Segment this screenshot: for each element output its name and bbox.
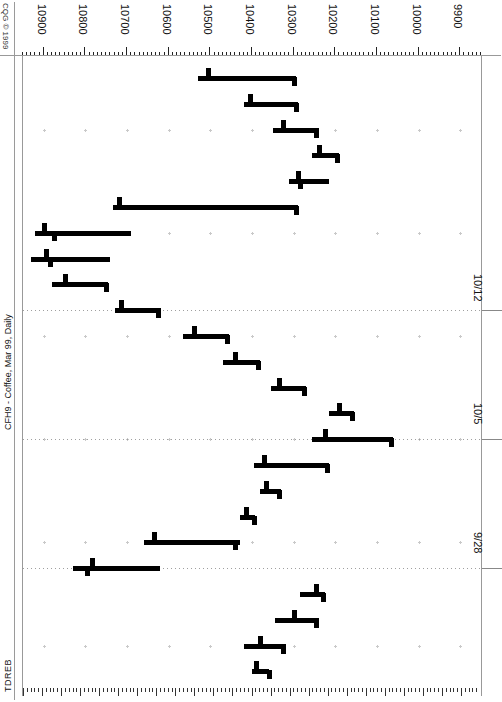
time-ruler-tick (46, 688, 47, 692)
time-ruler-tick (297, 688, 298, 692)
time-ruler-tick (400, 688, 401, 692)
time-ruler-tick (252, 688, 253, 696)
time-ruler-tick (248, 688, 249, 692)
price-tick-label: 10300 (286, 4, 298, 35)
time-ruler-tick (145, 688, 146, 692)
time-ruler-tick (73, 688, 74, 692)
time-ruler-tick (229, 688, 230, 692)
time-ruler-tick (442, 688, 443, 696)
time-ruler-tick (141, 688, 142, 692)
time-ruler-tick (130, 688, 131, 692)
time-ruler-tick (34, 688, 35, 692)
time-ruler-tick (286, 688, 287, 692)
time-ruler-tick (126, 688, 127, 692)
time-ruler-tick (331, 688, 332, 692)
time-ruler-tick (362, 688, 363, 692)
time-ruler-tick (343, 688, 344, 692)
time-ruler-tick (263, 688, 264, 692)
time-ruler-tick (377, 688, 378, 692)
time-ruler-tick (392, 688, 393, 692)
time-ruler-tick (198, 688, 199, 692)
date-axis-separator (482, 568, 502, 569)
time-ruler-tick (84, 688, 85, 692)
time-ruler-tick (290, 688, 291, 696)
time-ruler-tick (232, 688, 233, 696)
time-ruler-tick (179, 688, 180, 692)
date-tick-label: 9/28 (472, 532, 484, 553)
time-ruler-tick (221, 688, 222, 692)
time-ruler-tick (404, 688, 405, 696)
time-ruler-tick (31, 688, 32, 692)
time-ruler-tick (80, 688, 81, 696)
date-axis: 10/1210/59/28 (481, 56, 501, 696)
time-ruler-tick (152, 688, 153, 692)
time-ruler-tick (206, 688, 207, 692)
time-ruler-tick (446, 688, 447, 692)
time-ruler-tick (133, 688, 134, 692)
time-ruler-tick (23, 688, 24, 696)
time-ruler-tick (274, 688, 275, 692)
time-ruler-tick (27, 688, 28, 692)
time-ruler-tick (202, 688, 203, 692)
time-ruler-tick (69, 688, 70, 692)
time-ruler-tick (65, 688, 66, 692)
price-tick-label: 10700 (119, 4, 131, 35)
ohlc-open-tick (254, 661, 259, 670)
time-ruler-tick (194, 688, 195, 696)
time-ruler-tick (434, 688, 435, 692)
time-ruler-tick (450, 688, 451, 692)
time-ruler-tick (225, 688, 226, 692)
ohlc-close-tick (267, 670, 272, 679)
time-axis-ruler (23, 688, 480, 696)
time-ruler-tick (76, 688, 77, 692)
time-ruler-tick (50, 688, 51, 692)
time-ruler-tick (461, 688, 462, 696)
time-ruler-tick (213, 688, 214, 696)
time-ruler-tick (217, 688, 218, 692)
time-ruler-tick (347, 688, 348, 696)
time-ruler-tick (244, 688, 245, 692)
time-ruler-tick (255, 688, 256, 692)
time-ruler-tick (183, 688, 184, 692)
time-ruler-tick (240, 688, 241, 692)
time-ruler-tick (358, 688, 359, 692)
price-tick-label: 10100 (369, 4, 381, 35)
time-ruler-tick (168, 688, 169, 692)
price-tick-label: 10600 (161, 4, 173, 35)
time-ruler-tick (191, 688, 192, 692)
time-ruler-tick (453, 688, 454, 692)
time-ruler-tick (164, 688, 165, 692)
time-ruler-tick (137, 688, 138, 696)
time-ruler-tick (415, 688, 416, 692)
time-ruler-tick (282, 688, 283, 692)
time-ruler-tick (354, 688, 355, 692)
time-ruler-tick (122, 688, 123, 692)
frame-left-rail (14, 2, 15, 700)
price-tick-label: 10900 (36, 4, 48, 35)
time-ruler-tick (370, 688, 371, 692)
time-ruler-tick (172, 688, 173, 692)
time-ruler-tick (118, 688, 119, 696)
time-ruler-tick (351, 688, 352, 692)
time-ruler-tick (419, 688, 420, 692)
time-ruler-tick (324, 688, 325, 692)
time-ruler-tick (366, 688, 367, 696)
time-ruler-tick (408, 688, 409, 692)
time-ruler-tick (465, 688, 466, 692)
time-ruler-tick (389, 688, 390, 692)
time-ruler-tick (423, 688, 424, 696)
price-tick-label: 9900 (452, 4, 464, 28)
chart-title: CFH9 - Coffee, Mar 99, Daily (3, 314, 13, 430)
time-ruler-tick (457, 688, 458, 692)
time-ruler-tick (156, 688, 157, 696)
time-ruler-tick (301, 688, 302, 692)
time-ruler-tick (469, 688, 470, 692)
time-ruler-tick (57, 688, 58, 692)
plot-area[interactable] (22, 56, 482, 696)
time-ruler-tick (236, 688, 237, 692)
date-tick-label: 10/12 (472, 274, 484, 302)
time-ruler-tick (293, 688, 294, 692)
time-ruler-tick (385, 688, 386, 696)
time-ruler-tick (103, 688, 104, 692)
price-tick-label: 10400 (244, 4, 256, 35)
